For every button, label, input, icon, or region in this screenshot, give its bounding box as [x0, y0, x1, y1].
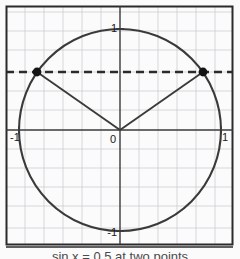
- y-axis-top-label: 1: [111, 22, 117, 34]
- figure-container: 1 -1 -1 1 0 sin x = 0.5 at two points: [0, 0, 240, 259]
- right-intersection-point: [199, 68, 208, 77]
- left-intersection-point: [33, 68, 42, 77]
- y-axis-bottom-label: -1: [107, 226, 117, 238]
- unit-circle-diagram: 1 -1 -1 1 0: [0, 0, 240, 259]
- origin-label: 0: [110, 133, 116, 145]
- figure-caption: sin x = 0.5 at two points: [0, 250, 240, 259]
- x-axis-right-label: 1: [222, 131, 228, 143]
- x-axis-left-label: -1: [10, 131, 20, 143]
